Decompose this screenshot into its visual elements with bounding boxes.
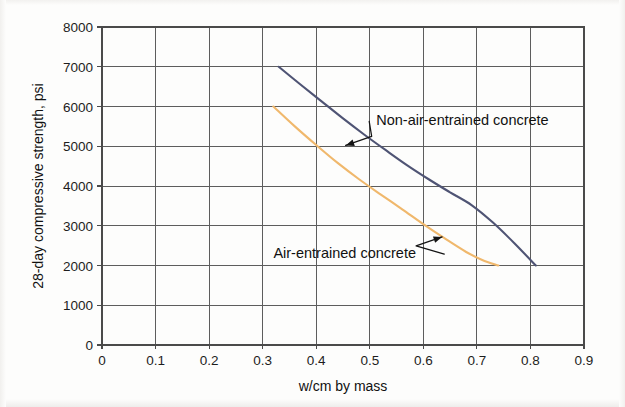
series-annotations: Non-air-entrained concreteAir-entrained …: [273, 112, 548, 261]
annotation-leader-line: [346, 121, 372, 145]
y-axis-title: 28-day compressive strength, psi: [30, 83, 46, 288]
y-tick-label: 5000: [63, 139, 93, 154]
gridlines: [102, 27, 584, 345]
y-tick-label: 0: [85, 338, 93, 353]
y-tick-label: 4000: [63, 179, 93, 194]
figure-container: 00.10.20.30.40.50.60.70.80.9 01000200030…: [0, 0, 625, 407]
y-tick-label: 1000: [63, 298, 93, 313]
x-tick-label: 0.6: [414, 353, 433, 368]
chart-svg: 00.10.20.30.40.50.60.70.80.9 01000200030…: [0, 0, 625, 407]
x-tick-label: 0.3: [253, 353, 272, 368]
annotation-leader-line: [416, 237, 444, 254]
x-tick-label: 0: [98, 353, 106, 368]
x-tick-label: 0.4: [307, 353, 326, 368]
annotation-arrowhead: [346, 139, 355, 145]
annotation-arrowhead: [433, 236, 442, 242]
x-tick-label: 0.9: [575, 353, 594, 368]
x-axis-title: w/cm by mass: [298, 378, 388, 394]
y-tick-label: 2000: [63, 259, 93, 274]
y-tick-labels: 010002000300040005000600070008000: [63, 20, 93, 353]
annotation-label: Air-entrained concrete: [273, 245, 416, 261]
x-tick-label: 0.1: [146, 353, 165, 368]
annotation-label: Non-air-entrained concrete: [376, 112, 548, 128]
axis-ticks: [97, 27, 584, 349]
x-tick-label: 0.5: [360, 353, 379, 368]
y-tick-label: 7000: [63, 60, 93, 75]
series-curve: [279, 67, 536, 266]
x-tick-label: 0.2: [200, 353, 219, 368]
data-series: [273, 67, 535, 266]
y-tick-label: 6000: [63, 100, 93, 115]
x-tick-label: 0.7: [467, 353, 486, 368]
x-tick-label: 0.8: [521, 353, 540, 368]
x-tick-labels: 00.10.20.30.40.50.60.70.80.9: [98, 353, 593, 368]
y-tick-label: 3000: [63, 219, 93, 234]
y-tick-label: 8000: [63, 20, 93, 35]
